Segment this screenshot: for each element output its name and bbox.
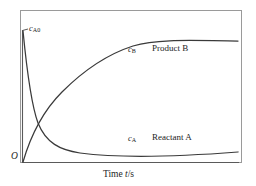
curve-product-b [23,40,238,162]
ca0-subscript: A0 [33,27,40,33]
cb-subscript: B [132,48,136,54]
ca0-tick-mark [23,29,29,31]
cb-curve-label: cB [128,45,136,54]
ca-curve-label: cA [128,134,136,143]
reactant-a-label: Reactant A [152,133,192,142]
origin-label: O [11,152,18,162]
chart-figure: cA0 cB Product B cA Reactant A O Time t/… [0,0,256,186]
product-b-label: Product B [152,44,188,53]
x-axis-label-prefix: Time [103,169,125,179]
x-axis-label: Time t/s [103,170,134,180]
ca-subscript: A [132,137,136,143]
x-axis-label-unit: /s [128,169,134,179]
ca0-axis-label: cA0 [29,24,40,33]
